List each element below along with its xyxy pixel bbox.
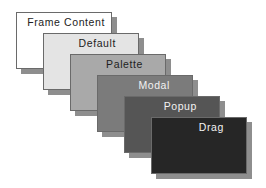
layer-label-palette: Palette: [106, 58, 143, 70]
layer-label-frame-content: Frame Content: [27, 16, 105, 28]
layer-label-drag: Drag: [199, 121, 224, 133]
layer-label-popup: Popup: [164, 100, 197, 112]
layer-label-modal: Modal: [138, 79, 170, 91]
layer-drag: Drag: [151, 117, 247, 174]
layer-label-default: Default: [79, 37, 116, 49]
